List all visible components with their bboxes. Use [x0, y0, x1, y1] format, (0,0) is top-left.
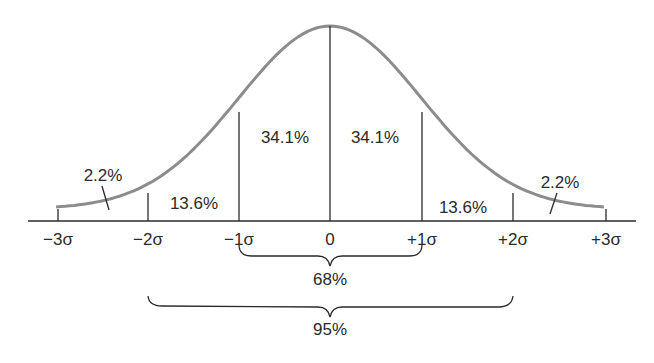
- region-label-left-tail: 2.2%: [84, 167, 123, 184]
- right-tail-leader: [550, 193, 557, 214]
- tick-label-plus-3-sigma: +3σ: [591, 231, 621, 248]
- bracket-95: [148, 296, 513, 317]
- sigma-lines: [58, 26, 606, 221]
- region-label-left-2: 13.6%: [170, 195, 218, 212]
- region-label-right-1: 34.1%: [351, 129, 399, 146]
- bracket-label-95: 95%: [313, 321, 347, 338]
- bracket-label-68: 68%: [313, 271, 347, 288]
- tick-label-zero: 0: [325, 231, 334, 248]
- tick-label-minus-3-sigma: −3σ: [43, 231, 73, 248]
- region-label-right-tail: 2.2%: [541, 174, 580, 191]
- region-label-right-2: 13.6%: [439, 199, 487, 216]
- tick-label-minus-2-sigma: −2σ: [133, 231, 163, 248]
- region-label-left-1: 34.1%: [261, 129, 309, 146]
- tick-label-plus-1-sigma: +1σ: [407, 231, 437, 248]
- tick-label-minus-1-sigma: −1σ: [224, 231, 254, 248]
- tick-label-plus-2-sigma: +2σ: [498, 231, 528, 248]
